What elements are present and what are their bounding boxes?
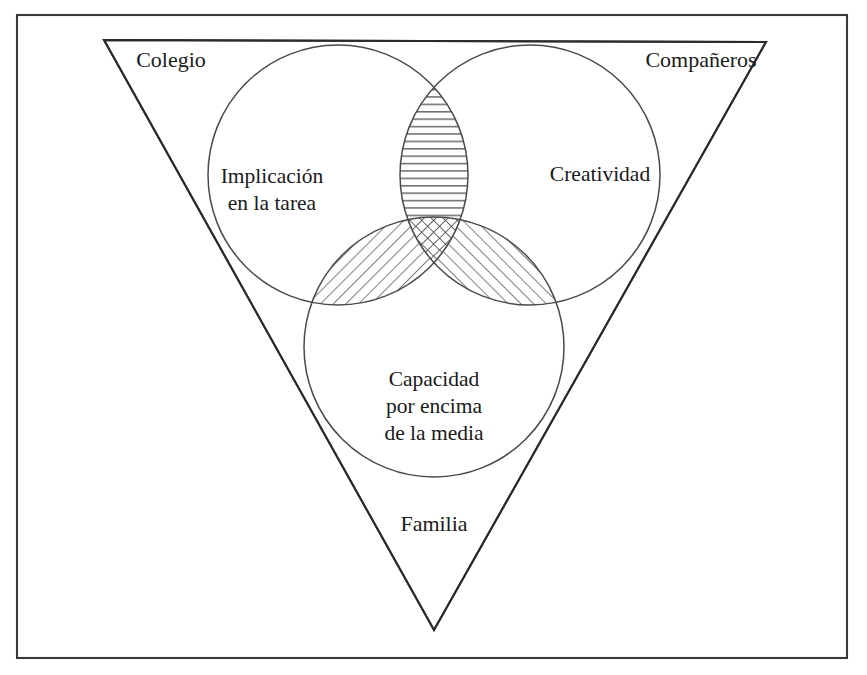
label-capacidad-line1: Capacidad xyxy=(389,367,480,391)
label-companeros: Compañeros xyxy=(645,47,756,72)
venn-triangle-diagram: Colegio Compañeros Familia Implicación e… xyxy=(0,0,867,675)
figure-container: Colegio Compañeros Familia Implicación e… xyxy=(0,0,867,675)
label-creatividad: Creatividad xyxy=(550,162,651,186)
overlap-implicacion-creatividad xyxy=(0,0,867,675)
label-implicacion: Implicación en la tarea xyxy=(221,164,324,215)
label-implicacion-line1: Implicación xyxy=(221,164,324,188)
label-colegio: Colegio xyxy=(136,47,206,72)
label-capacidad-line2: por encima xyxy=(386,394,483,418)
label-familia: Familia xyxy=(400,511,467,536)
label-capacidad-line3: de la media xyxy=(384,421,484,445)
label-capacidad: Capacidad por encima de la media xyxy=(384,367,484,445)
label-implicacion-line2: en la tarea xyxy=(228,191,317,215)
